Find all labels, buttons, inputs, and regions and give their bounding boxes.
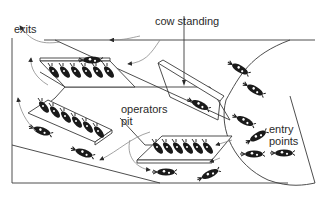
operators-pit-label-line2: pit bbox=[121, 116, 133, 127]
entry-points-label-line2: points bbox=[269, 136, 298, 147]
milking-platform-left bbox=[28, 98, 112, 145]
cow-standing-arrow-icon bbox=[182, 80, 186, 86]
exits-label: exits bbox=[14, 24, 37, 35]
entry-points-label-line1: entry bbox=[269, 124, 293, 135]
cow-standing-label: cow standing bbox=[155, 16, 219, 27]
parlour-diagram bbox=[0, 0, 332, 199]
cow-standing-partition bbox=[158, 60, 224, 120]
operators-pit-label-line1: operators bbox=[121, 104, 167, 115]
